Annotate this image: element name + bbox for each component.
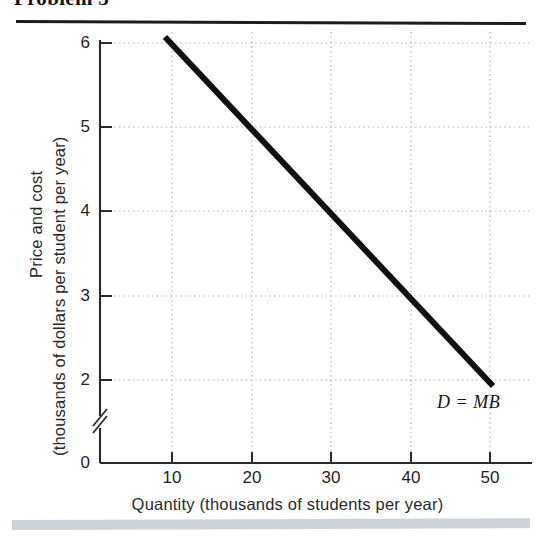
x-tick-label-50: 50 — [473, 468, 507, 488]
y-tick-label-2: 2 — [68, 370, 90, 390]
x-tick-label-20: 20 — [235, 468, 269, 488]
x-tick-marks — [172, 452, 490, 463]
x-tick-label-40: 40 — [394, 468, 428, 488]
x-tick-label-30: 30 — [314, 468, 348, 488]
y-tick-label-3: 3 — [68, 286, 90, 306]
y-tick-label-5: 5 — [68, 117, 90, 137]
x-axis-label-text: Quantity (thousands of students per year… — [98, 495, 444, 514]
y-axis-label-units: (thousands of dollars per student per ye… — [50, 136, 69, 456]
y-tick-label-6: 6 — [68, 33, 90, 53]
x-axis-label: Quantity (thousands of students per year… — [0, 495, 541, 514]
y-axis-label-primary: Price and cost — [27, 171, 46, 278]
demand-curve-label: D = MB — [437, 392, 500, 413]
y-tick-marks — [100, 43, 112, 380]
y-tick-label-4: 4 — [68, 201, 90, 221]
page-footer-band — [12, 518, 530, 530]
y-tick-label-0: 0 — [68, 453, 90, 473]
x-tick-label-10: 10 — [155, 468, 189, 488]
